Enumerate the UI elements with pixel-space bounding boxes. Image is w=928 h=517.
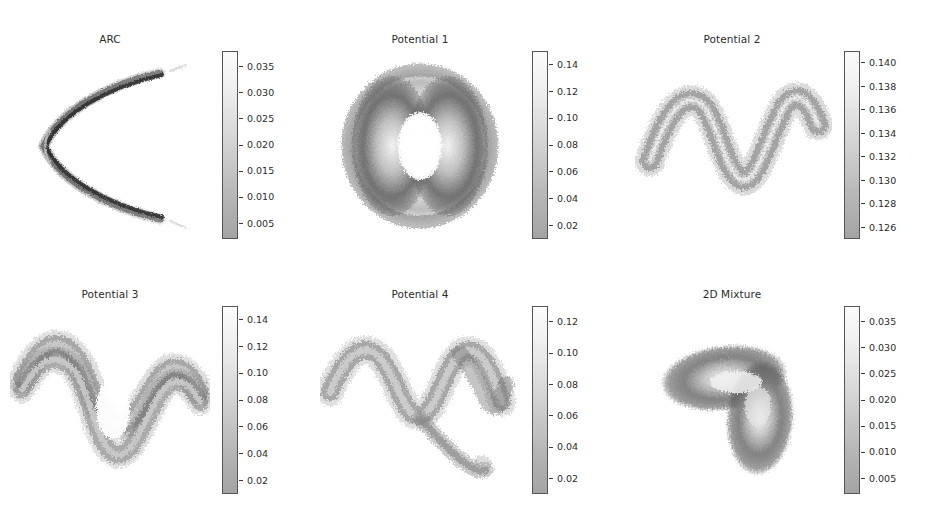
tick-mark xyxy=(549,384,553,385)
density-plot-potential-3 xyxy=(10,306,210,496)
tick-label: 0.14 xyxy=(247,315,268,325)
tick-mark xyxy=(239,118,243,119)
tick-mark xyxy=(861,426,865,427)
tick-mark xyxy=(549,171,553,172)
tick-mark xyxy=(861,227,865,228)
tick-label: 0.02 xyxy=(557,474,578,484)
tick-mark xyxy=(549,478,553,479)
tick-label: 0.02 xyxy=(247,476,268,486)
tick-label: 0.04 xyxy=(557,194,578,204)
tick-mark xyxy=(239,223,243,224)
tick-label: 0.10 xyxy=(557,113,578,123)
tick-label: 0.04 xyxy=(247,449,268,459)
potential1-density-svg xyxy=(320,51,520,241)
density-plot-potential-2 xyxy=(632,51,832,241)
tick-mark xyxy=(549,353,553,354)
tick-label: 0.132 xyxy=(869,152,896,162)
tick-mark xyxy=(549,145,553,146)
colorbar-gradient xyxy=(532,306,548,494)
arc-density-svg xyxy=(10,51,210,241)
tick-label: 0.035 xyxy=(247,62,274,72)
tick-mark xyxy=(861,321,865,322)
tick-mark xyxy=(861,109,865,110)
tick-label: 0.025 xyxy=(247,114,274,124)
panel-title: Potential 4 xyxy=(320,288,520,300)
potential3-density-svg xyxy=(10,306,210,496)
potential4-density-svg xyxy=(320,306,520,496)
tick-label: 0.12 xyxy=(247,342,268,352)
tick-mark xyxy=(239,346,243,347)
density-plot-2d-mixture xyxy=(632,306,832,496)
tick-label: 0.035 xyxy=(869,317,896,327)
panel-title: Potential 3 xyxy=(10,288,210,300)
tick-label: 0.010 xyxy=(247,192,274,202)
tick-mark xyxy=(861,478,865,479)
tick-mark xyxy=(549,64,553,65)
tick-label: 0.12 xyxy=(557,317,578,327)
tick-label: 0.015 xyxy=(247,166,274,176)
tick-mark xyxy=(239,145,243,146)
tick-mark xyxy=(239,92,243,93)
colorbar-ticks: 0.120.100.080.060.040.02 xyxy=(549,306,619,494)
tick-label: 0.138 xyxy=(869,82,896,92)
density-plot-potential-1 xyxy=(320,51,520,241)
colorbar-gradient xyxy=(222,306,238,494)
density-plot-arc xyxy=(10,51,210,241)
figure-canvas: ARC xyxy=(0,0,928,517)
tick-mark xyxy=(861,203,865,204)
tick-mark xyxy=(239,373,243,374)
tick-label: 0.04 xyxy=(557,442,578,452)
tick-mark xyxy=(239,453,243,454)
tick-label: 0.136 xyxy=(869,105,896,115)
tick-mark xyxy=(549,118,553,119)
tick-label: 0.126 xyxy=(869,223,896,233)
tick-label: 0.025 xyxy=(869,369,896,379)
potential2-density-svg xyxy=(632,51,832,241)
tick-label: 0.020 xyxy=(247,140,274,150)
tick-mark xyxy=(239,319,243,320)
tick-label: 0.005 xyxy=(247,219,274,229)
tick-label: 0.020 xyxy=(869,395,896,405)
tick-mark xyxy=(239,480,243,481)
tick-mark xyxy=(861,62,865,63)
tick-label: 0.08 xyxy=(557,140,578,150)
tick-mark xyxy=(549,415,553,416)
tick-mark xyxy=(549,198,553,199)
tick-mark xyxy=(861,347,865,348)
tick-label: 0.015 xyxy=(869,421,896,431)
colorbar-ticks: 0.1400.1380.1360.1340.1320.1300.1280.126 xyxy=(861,51,928,239)
tick-mark xyxy=(861,452,865,453)
tick-label: 0.06 xyxy=(557,411,578,421)
tick-label: 0.005 xyxy=(869,474,896,484)
colorbar-gradient xyxy=(532,51,548,239)
tick-mark xyxy=(861,156,865,157)
tick-label: 0.06 xyxy=(557,167,578,177)
colorbar-ticks: 0.0350.0300.0250.0200.0150.0100.005 xyxy=(861,306,928,494)
colorbar-ticks: 0.140.120.100.080.060.040.02 xyxy=(549,51,619,239)
mixture-density-svg xyxy=(632,306,832,496)
tick-label: 0.140 xyxy=(869,58,896,68)
tick-label: 0.06 xyxy=(247,422,268,432)
panel-title: Potential 2 xyxy=(632,33,832,45)
colorbar-gradient xyxy=(844,306,860,494)
tick-label: 0.08 xyxy=(557,380,578,390)
tick-mark xyxy=(239,197,243,198)
tick-mark xyxy=(861,133,865,134)
tick-label: 0.010 xyxy=(869,447,896,457)
tick-label: 0.10 xyxy=(557,348,578,358)
tick-mark xyxy=(549,225,553,226)
panel-title: 2D Mixture xyxy=(632,288,832,300)
tick-label: 0.02 xyxy=(557,221,578,231)
tick-label: 0.08 xyxy=(247,395,268,405)
colorbar-gradient xyxy=(844,51,860,239)
density-plot-potential-4 xyxy=(320,306,520,496)
tick-label: 0.130 xyxy=(869,176,896,186)
tick-mark xyxy=(549,447,553,448)
tick-label: 0.14 xyxy=(557,60,578,70)
tick-label: 0.10 xyxy=(247,368,268,378)
tick-mark xyxy=(861,86,865,87)
tick-mark xyxy=(239,426,243,427)
tick-mark xyxy=(239,400,243,401)
tick-mark xyxy=(239,171,243,172)
tick-mark xyxy=(861,373,865,374)
